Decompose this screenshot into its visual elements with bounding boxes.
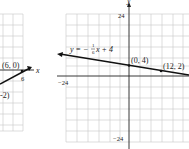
point-marker-0-4 [128,64,131,67]
point-label-0-4: (0, 4) [131,56,149,65]
equation-suffix: x + 4 [95,45,113,54]
right-line-arrow-icon [57,52,63,57]
y-tick-top: 24 [118,12,125,19]
y-axis-label: y [126,0,131,5]
right-graph [57,2,189,149]
point-label-12-2: (12, 2) [163,62,185,71]
equation-prefix: y = − [69,45,88,54]
right-grid [66,14,189,142]
graphs-figure: (6, 0) -2) 6 x y 24 −24 −24 y = − 1 6 x … [0,0,189,149]
left-point-marker [21,70,24,73]
left-graph [0,14,34,131]
left-grid [0,14,23,131]
equation-label: y = − 1 6 x + 4 [69,43,113,55]
x-tick-left: −24 [58,79,69,86]
y-tick-bottom: −24 [113,135,124,142]
left-point-label: (6, 0) [2,61,20,70]
equation-frac-den: 6 [92,50,95,55]
left-x-axis-label: x [35,66,40,75]
left-x-tick-label: 6 [21,75,25,82]
left-partial-point-label: -2) [0,91,10,100]
point-marker-12-2 [160,70,163,73]
